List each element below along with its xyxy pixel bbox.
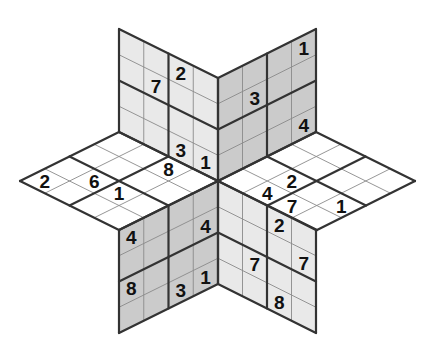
star-sudoku-board: 273113426182471448312778: [0, 0, 439, 357]
given-digit: 6: [89, 171, 100, 192]
given-digit: 2: [274, 215, 285, 236]
given-digit: 4: [200, 216, 211, 237]
given-digit: 8: [163, 159, 174, 180]
given-digit: 2: [287, 171, 298, 192]
given-digit: 1: [298, 38, 309, 59]
given-digit: 4: [298, 115, 309, 136]
given-digit: 7: [287, 196, 298, 217]
given-digit: 2: [176, 63, 187, 84]
cells-layer: [20, 29, 415, 333]
given-digit: 3: [249, 88, 260, 109]
given-digit: 1: [114, 183, 125, 204]
given-digit: 3: [176, 280, 187, 301]
given-digit: 1: [336, 196, 347, 217]
given-digit: 1: [200, 152, 211, 173]
given-digit: 7: [298, 253, 309, 274]
given-digit: 4: [126, 227, 137, 248]
given-digit: 8: [126, 278, 137, 299]
given-digit: 3: [176, 140, 187, 161]
given-digit: 8: [274, 292, 285, 313]
given-digit: 7: [249, 254, 260, 275]
given-digit: 2: [39, 171, 50, 192]
given-digit: 7: [151, 76, 162, 97]
given-digit: 4: [262, 183, 273, 204]
given-digit: 1: [200, 267, 211, 288]
